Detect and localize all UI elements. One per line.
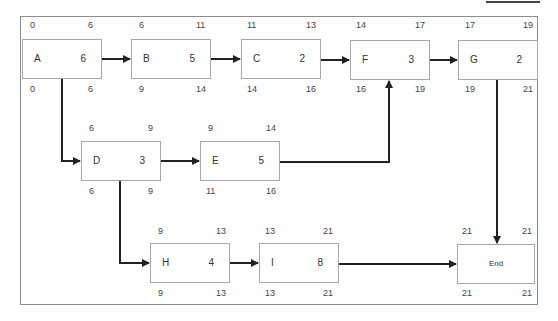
node-d-ef: 9: [148, 123, 153, 133]
edge-d-h: [120, 181, 149, 263]
node-b-ls: 9: [139, 84, 144, 94]
node-i-ef: 21: [323, 226, 333, 236]
node-e-duration: 5: [258, 155, 264, 166]
node-a[interactable]: A 6: [22, 39, 102, 79]
node-h-name: H: [162, 257, 169, 268]
node-g-lf: 21: [523, 84, 533, 94]
node-i-es: 13: [265, 226, 275, 236]
node-h-duration: 4: [208, 257, 214, 268]
node-e-lf: 16: [266, 186, 276, 196]
node-f-duration: 3: [408, 54, 414, 65]
node-b-es: 6: [139, 20, 144, 30]
node-end-es: 21: [462, 226, 472, 236]
node-d-name: D: [93, 155, 100, 166]
node-g[interactable]: G 2: [458, 40, 538, 80]
node-i[interactable]: I 8: [259, 243, 339, 283]
node-g-duration: 2: [516, 54, 522, 65]
node-i-ls: 13: [265, 288, 275, 298]
node-h-lf: 13: [216, 288, 226, 298]
edge-a-d: [62, 79, 80, 161]
node-c-ef: 13: [306, 20, 316, 30]
node-g-ef: 19: [523, 20, 533, 30]
node-end-lf: 21: [522, 288, 532, 298]
node-b-duration: 5: [189, 53, 195, 64]
node-i-lf: 21: [323, 288, 333, 298]
node-g-es: 17: [465, 20, 475, 30]
node-d-duration: 3: [139, 155, 145, 166]
node-a-lf: 6: [88, 84, 93, 94]
node-f-ef: 17: [415, 20, 425, 30]
node-b-name: B: [143, 53, 150, 64]
node-a-es: 0: [30, 20, 35, 30]
node-c-lf: 16: [306, 84, 316, 94]
node-d-ls: 6: [89, 186, 94, 196]
node-b-ef: 11: [196, 20, 205, 30]
node-c-name: C: [253, 53, 260, 64]
node-c[interactable]: C 2: [241, 39, 321, 79]
node-d-es: 6: [89, 123, 94, 133]
node-b[interactable]: B 5: [131, 39, 211, 79]
node-h-ls: 9: [158, 288, 163, 298]
node-c-duration: 2: [299, 53, 305, 64]
node-f-name: F: [362, 54, 368, 65]
node-e-es: 9: [208, 123, 213, 133]
edge-e-f: [280, 81, 389, 162]
node-e-ls: 11: [206, 186, 215, 196]
node-a-ef: 6: [88, 20, 93, 30]
node-end-name: End: [458, 259, 534, 268]
node-a-ls: 0: [30, 84, 35, 94]
node-g-ls: 19: [465, 84, 475, 94]
node-end-ef: 21: [522, 226, 532, 236]
node-c-ls: 14: [247, 84, 257, 94]
node-i-duration: 8: [317, 257, 323, 268]
node-h[interactable]: H 4: [150, 243, 230, 283]
node-e[interactable]: E 5: [200, 141, 280, 181]
node-c-es: 11: [247, 20, 256, 30]
node-i-name: I: [271, 257, 274, 268]
node-h-es: 9: [158, 226, 163, 236]
node-f-lf: 19: [415, 84, 425, 94]
node-e-ef: 14: [266, 123, 276, 133]
node-d[interactable]: D 3: [81, 141, 161, 181]
node-g-name: G: [470, 54, 478, 65]
node-f-ls: 16: [356, 84, 366, 94]
node-end-ls: 21: [462, 288, 472, 298]
node-f-es: 14: [356, 20, 366, 30]
node-e-name: E: [212, 155, 219, 166]
node-b-lf: 14: [196, 84, 206, 94]
node-end[interactable]: End: [457, 244, 535, 284]
node-a-duration: 6: [80, 53, 86, 64]
node-h-ef: 13: [216, 226, 226, 236]
node-f[interactable]: F 3: [350, 40, 430, 80]
node-d-lf: 9: [148, 186, 153, 196]
node-a-name: A: [34, 53, 41, 64]
